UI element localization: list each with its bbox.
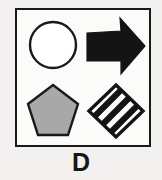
striped-diamond-icon [85, 82, 147, 140]
right-arrow-icon [85, 16, 147, 78]
pentagon-icon [27, 82, 81, 140]
shape-diamond [85, 82, 147, 140]
figure-panel [15, 8, 151, 147]
shape-arrow [85, 16, 147, 78]
panel-label: D [0, 150, 162, 175]
shape-circle [27, 16, 81, 78]
circle-icon [27, 16, 81, 78]
shape-pentagon [27, 82, 81, 140]
